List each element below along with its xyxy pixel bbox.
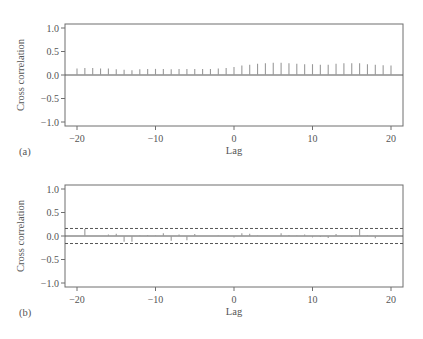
x-tick-label: −20 [69, 133, 85, 144]
x-tick-label: −10 [148, 133, 164, 144]
y-tick-label: −0.5 [41, 93, 59, 104]
y-tick-label: 1.0 [47, 23, 60, 34]
x-axis-label: Lag [226, 306, 243, 317]
x-tick-label: 0 [232, 294, 237, 305]
x-tick-label: −20 [69, 294, 85, 305]
y-axis-label: Cross correlation [15, 38, 26, 111]
chart-panel-b: 1.00.50.0−0.5−1.0−20−1001020Cross correl… [15, 184, 403, 320]
y-tick-label: 0.0 [47, 70, 60, 81]
chart-panel-a: 1.00.50.0−0.5−1.0−20−1001020Cross correl… [15, 23, 403, 159]
y-axis-label: Cross correlation [15, 199, 26, 272]
y-tick-label: −1.0 [41, 117, 59, 128]
x-tick-label: 20 [386, 133, 396, 144]
y-tick-label: 0.0 [47, 231, 60, 242]
x-axis-label: Lag [226, 145, 243, 156]
y-tick-label: −1.0 [41, 278, 59, 289]
cross-correlation-figure: 1.00.50.0−0.5−1.0−20−1001020Cross correl… [0, 0, 423, 339]
x-tick-label: 20 [386, 294, 396, 305]
panel-label: (b) [19, 307, 32, 319]
y-tick-label: 1.0 [47, 184, 60, 195]
x-tick-label: −10 [148, 294, 164, 305]
x-tick-label: 0 [232, 133, 237, 144]
panel-label: (a) [19, 146, 31, 158]
x-tick-label: 10 [308, 294, 318, 305]
y-tick-label: −0.5 [41, 254, 59, 265]
x-tick-label: 10 [308, 133, 318, 144]
y-tick-label: 0.5 [47, 46, 60, 57]
y-tick-label: 0.5 [47, 207, 60, 218]
